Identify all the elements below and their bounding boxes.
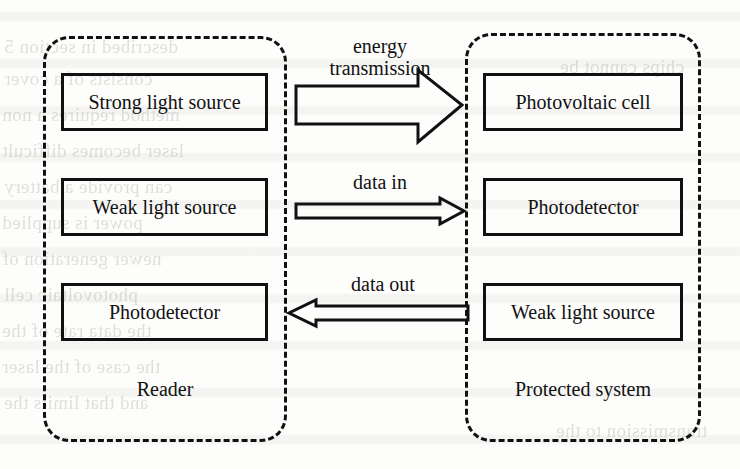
component-label: Photodetector — [109, 302, 220, 322]
component-label: Weak light source — [93, 197, 237, 217]
component-reader-weak-light-source[interactable]: Weak light source — [61, 178, 268, 236]
arrow-caption-energy-line1: energy — [300, 36, 460, 56]
arrow-caption-data-in: data in — [300, 172, 460, 192]
arrow-caption-data-out: data out — [300, 274, 466, 294]
arrow-shape-data-in — [294, 196, 466, 228]
component-label: Photodetector — [527, 197, 638, 217]
diagram-canvas: described in section 5 consists of a cov… — [0, 0, 740, 469]
component-protected-photovoltaic-cell[interactable]: Photovoltaic cell — [483, 73, 683, 131]
zone-label-reader: Reader — [43, 378, 287, 401]
arrow-shape-data-out — [286, 298, 470, 330]
zone-label-protected-system: Protected system — [465, 378, 701, 401]
component-protected-weak-light-source[interactable]: Weak light source — [483, 283, 683, 341]
component-label: Strong light source — [88, 92, 240, 112]
component-reader-photodetector[interactable]: Photodetector — [61, 283, 268, 341]
arrow-shape-energy-transmission — [294, 66, 466, 146]
component-reader-strong-light-source[interactable]: Strong light source — [61, 73, 268, 131]
component-label: Photovoltaic cell — [516, 92, 651, 112]
component-protected-photodetector[interactable]: Photodetector — [483, 178, 683, 236]
component-label: Weak light source — [511, 302, 655, 322]
